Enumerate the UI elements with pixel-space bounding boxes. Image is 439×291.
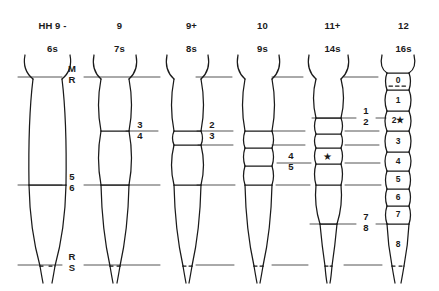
somite-number-3: 3	[385, 136, 411, 146]
somite-number-5: 5	[385, 174, 411, 184]
embryo-column-1	[24, 55, 70, 283]
somite-number-1: 1	[385, 95, 411, 105]
somite-number-7: 7	[385, 209, 411, 219]
embryo-column-2	[93, 55, 136, 283]
somite-number-6: 6	[385, 192, 411, 202]
somite-stage-figure: HH 9 - 6s 9 7s 9+ 8s 10 9s 11+ 14s 12 16…	[0, 0, 439, 291]
level-label-RS: R S	[62, 252, 82, 273]
somite-number-4: 4	[385, 156, 411, 166]
level-label-45: 4 5	[281, 151, 301, 172]
embryo-column-5	[308, 55, 348, 283]
embryo-column-4	[237, 55, 279, 283]
level-label-34: 3 4	[130, 120, 150, 141]
embryo-drawings: ★	[0, 0, 439, 291]
level-label-23: 2 3	[202, 120, 222, 141]
level-label-12: 1 2	[356, 106, 376, 127]
level-label-78: 7 8	[356, 212, 376, 233]
somite-number-8: 8	[385, 239, 411, 249]
embryo-column-3	[166, 55, 208, 283]
level-label-MR: M R	[62, 64, 82, 85]
star-marker-icon: ★	[323, 151, 332, 162]
somite-number-0: 0	[385, 75, 411, 85]
somite-number-2: 2★	[385, 115, 411, 125]
level-label-56: 5 6	[62, 172, 82, 193]
